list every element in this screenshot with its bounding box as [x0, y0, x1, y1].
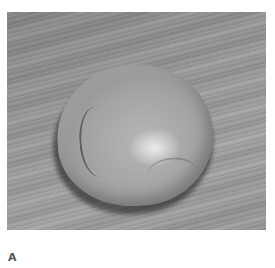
dough-photo	[7, 12, 266, 230]
dough-fold	[77, 105, 118, 177]
panel-label: A	[8, 251, 17, 264]
